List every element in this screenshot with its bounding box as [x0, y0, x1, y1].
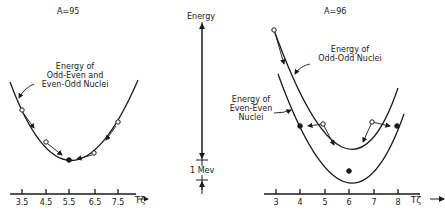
label-line: Odd-Odd Nuclei	[300, 54, 400, 63]
even-even-point-4	[298, 124, 303, 129]
energy-scale-unit: 1 Mev	[190, 166, 214, 175]
right-axis-ticks	[276, 189, 398, 194]
tick-label: 3	[273, 198, 278, 207]
axis-label: Tζ	[135, 195, 145, 205]
right-panel-title: A=96	[324, 7, 346, 16]
label-line: Odd-Even and	[30, 71, 120, 80]
even-even-point-8	[395, 124, 400, 129]
axis-label: Tζ	[411, 195, 421, 205]
odd-odd-point-7	[370, 120, 374, 124]
label-line: Nuclei	[222, 113, 280, 122]
left-axis-ticks	[22, 189, 118, 194]
odd-odd-point-3	[272, 28, 276, 32]
tick-label: 5	[322, 198, 327, 207]
label-line: Energy of	[222, 95, 280, 104]
odd-even-point-6-5	[92, 151, 96, 155]
odd-odd-point-5	[321, 122, 325, 126]
label-line: Energy of	[30, 62, 120, 71]
tick-label: 5.5	[63, 198, 76, 207]
even-even-curve-label: Energy of Even-Even Nuclei	[222, 95, 280, 122]
tick-label: 6	[346, 198, 351, 207]
odd-even-point-4-5	[44, 140, 48, 144]
tick-label: 7.5	[112, 198, 125, 207]
label-line: Even-Even	[222, 104, 280, 113]
tick-label: 6.5	[89, 198, 102, 207]
odd-even-point-7-5	[116, 120, 120, 124]
label-line: Energy of	[300, 45, 400, 54]
label-line: Even-Odd Nuclei	[30, 80, 120, 89]
even-even-point-6	[347, 169, 352, 174]
tick-label: 7	[371, 198, 376, 207]
tick-label: 8	[395, 198, 400, 207]
odd-odd-curve-label: Energy of Odd-Odd Nuclei	[300, 45, 400, 63]
energy-scale-title: Energy	[187, 12, 215, 21]
tick-label: 4.5	[40, 198, 53, 207]
tick-label: 3.5	[16, 198, 29, 207]
odd-even-point-3-5	[20, 108, 24, 112]
tick-label: 4	[297, 198, 302, 207]
odd-even-curve-label: Energy of Odd-Even and Even-Odd Nuclei	[30, 62, 120, 89]
odd-even-point-5-5	[67, 158, 72, 163]
even-even-parabola	[278, 74, 404, 183]
left-panel-title: A=95	[57, 7, 79, 16]
